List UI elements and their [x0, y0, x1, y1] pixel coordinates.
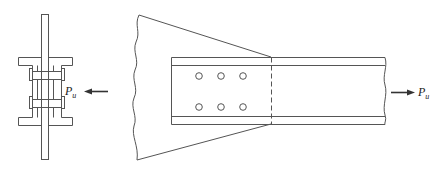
top-bolt-shank: [33, 72, 62, 80]
bolt-holes: [196, 73, 247, 111]
right-load-label: Pu: [418, 86, 429, 101]
left-channel-top-flange: [19, 58, 42, 70]
right-load-arrow-icon: [391, 90, 415, 96]
right-channel-top-flange: [49, 58, 73, 70]
right-channel-bottom-flange: [49, 109, 73, 126]
gusset-plate: [133, 15, 271, 160]
top-bolt-nut: [62, 69, 65, 81]
left-load-label: Pu: [65, 85, 76, 100]
top-bolt-head: [30, 69, 33, 81]
gusset-plate-section: [42, 15, 49, 160]
left-channel-bottom-flange: [19, 109, 42, 126]
channel: [172, 58, 386, 125]
bolt-hole: [218, 73, 225, 80]
channel-break-line: [384, 58, 386, 125]
bolt-hole: [218, 104, 225, 111]
elevation-view: [133, 15, 386, 160]
bottom-bolt-shank: [33, 100, 62, 108]
bolt-hole: [240, 104, 247, 111]
bolt-hole: [196, 104, 203, 111]
left-load-arrow-icon: [84, 89, 108, 95]
bolt-hole: [240, 73, 247, 80]
bottom-bolt-head: [30, 97, 33, 109]
bolt-hole: [196, 73, 203, 80]
